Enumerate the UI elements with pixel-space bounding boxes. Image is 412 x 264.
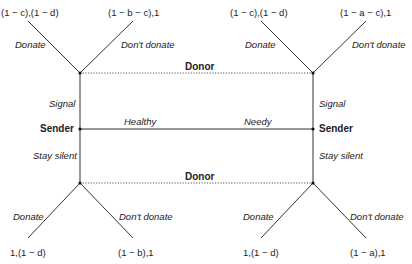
info-set-top-label: Donor [185, 61, 214, 72]
label-tr-donate: Donate [245, 39, 276, 50]
info-set-bottom-label: Donor [185, 171, 214, 182]
payoff-healthy-signal-dont: (1 − b − c),1 [108, 7, 159, 18]
label-bl-dont-donate: Don't donate [119, 211, 173, 222]
label-right-sender: Sender [319, 123, 353, 134]
node-sender-left [78, 127, 81, 130]
label-br-dont-donate: Don't donate [350, 211, 404, 222]
payoff-needy-silent-donate: 1,(1 − d) [243, 247, 279, 258]
payoff-needy-signal-dont: (1 − a − c),1 [340, 7, 391, 18]
label-healthy: Healthy [124, 116, 156, 127]
node-donor-tr [311, 71, 314, 74]
node-donor-bl [78, 181, 81, 184]
label-tl-donate: Donate [15, 39, 46, 50]
node-donor-br [311, 181, 314, 184]
label-left-sender: Sender [40, 123, 74, 134]
label-left-signal: Signal [49, 98, 75, 109]
payoff-healthy-signal-donate: (1 − c),(1 − d) [1, 7, 59, 18]
payoff-needy-silent-dont: (1 − a),1 [350, 247, 386, 258]
payoff-needy-signal-donate: (1 − c),(1 − d) [230, 7, 288, 18]
label-tl-dont-donate: Don't donate [121, 39, 175, 50]
label-bl-donate: Donate [13, 211, 44, 222]
label-needy: Needy [244, 116, 271, 127]
label-right-signal: Signal [319, 98, 345, 109]
payoff-healthy-silent-dont: (1 − b),1 [118, 247, 154, 258]
label-left-stay-silent: Stay silent [33, 150, 77, 161]
label-right-stay-silent: Stay silent [319, 150, 363, 161]
node-donor-tl [78, 71, 81, 74]
label-tr-dont-donate: Don't donate [352, 39, 406, 50]
node-sender-right [311, 127, 314, 130]
label-br-donate: Donate [243, 211, 274, 222]
payoff-healthy-silent-donate: 1,(1 − d) [10, 247, 46, 258]
